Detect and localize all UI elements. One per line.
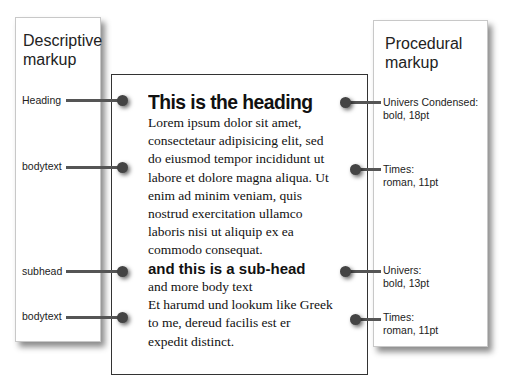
label-line: Times: <box>383 163 438 176</box>
body-line: laboris nisi ut aliquip ex ea <box>148 223 329 241</box>
connector-dot-icon <box>350 164 361 175</box>
body-line: and more body text <box>148 278 333 296</box>
label-heading: Heading <box>22 94 61 107</box>
label-bodytext: bodytext <box>22 310 62 323</box>
body-line: labore et dolore magna aliqua. Ut <box>148 169 329 187</box>
document-body-1: Lorem ipsum dolor sit amet, consectetaur… <box>148 114 329 260</box>
descriptive-markup-panel: Descriptive markup <box>15 17 101 342</box>
body-line: Lorem ipsum dolor sit amet, <box>148 114 329 132</box>
connector-dot-icon <box>340 97 351 108</box>
label-line: bold, 13pt <box>383 277 429 290</box>
title-line: markup <box>23 50 102 69</box>
body-line: expedit distinct. <box>148 333 333 351</box>
body-line: commodo consequat. <box>148 241 329 259</box>
label-line: Times: <box>383 311 438 324</box>
connector-line <box>66 99 122 102</box>
label-line: Univers: <box>383 264 429 277</box>
label-line: Univers Condensed: <box>383 96 478 109</box>
procedural-label-heading: Univers Condensed: bold, 18pt <box>383 96 478 122</box>
title-line: Descriptive <box>23 31 102 50</box>
connector-dot-icon <box>117 266 128 277</box>
body-line: to me, dereud facilis est er <box>148 314 333 332</box>
body-line: enim ad minim veniam, quis <box>148 187 329 205</box>
procedural-label-bodytext: Times: roman, 11pt <box>383 163 438 189</box>
connector-dot-icon <box>117 312 128 323</box>
label-line: bold, 18pt <box>383 109 478 122</box>
procedural-markup-title: Procedural markup <box>385 34 462 72</box>
connector-dot-icon <box>117 162 128 173</box>
connector-dot-icon <box>350 314 361 325</box>
connector-line <box>66 270 122 273</box>
procedural-label-bodytext: Times: roman, 11pt <box>383 311 438 337</box>
document-heading: This is the heading <box>148 90 312 114</box>
title-line: markup <box>385 53 462 72</box>
body-line: do eiusmod tempor incididunt ut <box>148 150 329 168</box>
document-body-2: and more body text Et harumd und lookum … <box>148 278 333 351</box>
label-bodytext: bodytext <box>22 160 62 173</box>
label-line: roman, 11pt <box>383 176 438 189</box>
connector-line <box>66 316 122 319</box>
title-line: Procedural <box>385 34 462 53</box>
body-line: nostrud exercitation ullamco <box>148 205 329 223</box>
body-line: consectetaur adipisicing elit, sed <box>148 132 329 150</box>
procedural-label-subhead: Univers: bold, 13pt <box>383 264 429 290</box>
body-line: Et harumd und lookum like Greek <box>148 296 333 314</box>
connector-line <box>66 166 122 169</box>
descriptive-markup-title: Descriptive markup <box>23 31 102 69</box>
label-line: roman, 11pt <box>383 324 438 337</box>
label-subhead: subhead <box>22 265 62 278</box>
connector-dot-icon <box>117 95 128 106</box>
connector-dot-icon <box>340 266 351 277</box>
document-subhead: and this is a sub-head <box>148 260 306 278</box>
